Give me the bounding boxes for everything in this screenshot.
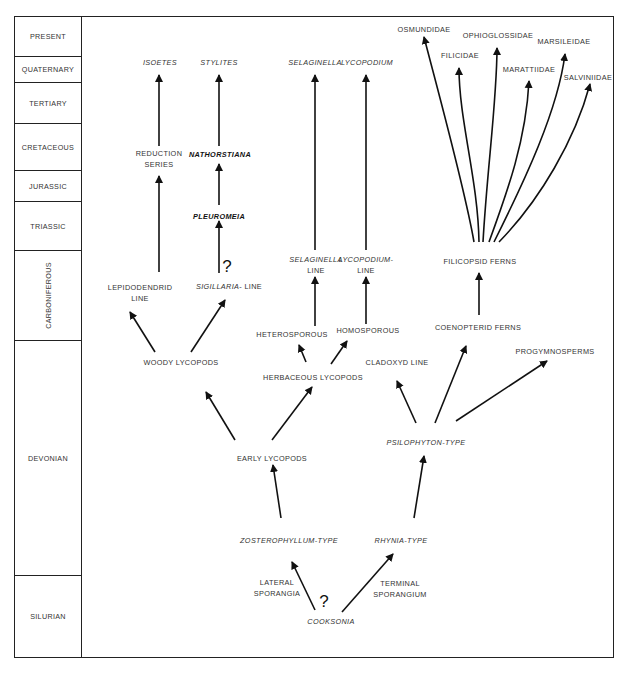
label-line: LINE	[289, 266, 342, 277]
label-coenopterid-ferns: COENOPTERID FERNS	[435, 323, 521, 334]
label-salviniidae: SALVINIIDAE	[564, 73, 612, 84]
arrow-zosterophyllum-to-early	[273, 465, 281, 518]
label-line: SPORANGIA	[254, 589, 301, 600]
question-mark-sigillaria: ?	[222, 257, 231, 277]
label-lateral-sporangia: LATERAL SPORANGIA	[254, 578, 301, 599]
arrow-psilophyton-to-progymnosperms	[456, 361, 547, 421]
label-line: SERIES	[136, 160, 183, 171]
label-rest: -TYPE	[315, 536, 338, 545]
arrow-herbaceous-to-homosporous	[331, 341, 347, 364]
label-ophioglossidae: OPHIOGLOSSIDAE	[463, 31, 534, 42]
label-zosterophyllum-type: ZOSTEROPHYLLUM-TYPE	[240, 536, 338, 547]
label-line: LEPIDODENDRID	[108, 283, 173, 294]
label-line: LINE	[108, 294, 173, 305]
label-isoetes: ISOETES	[143, 58, 177, 69]
arrow-rhynia-to-psilophyton	[414, 456, 424, 518]
label-marsileidae: MARSILEIDAE	[538, 37, 591, 48]
label-nathorstiana: NATHORSTIANA	[189, 150, 251, 161]
label-cladoxyd-line: CLADOXYD LINE	[366, 358, 429, 369]
label-lycopodium: LYCOPODIUM	[341, 58, 393, 69]
label-heterosporous: HETEROSPOROUS	[256, 330, 327, 341]
label-terminal-sporangium: TERMINAL SPORANGIUM	[373, 579, 426, 600]
label-early-lycopods: EARLY LYCOPODS	[237, 454, 307, 465]
label-italic-part: SIGILLARIA	[196, 282, 239, 291]
phylogeny-diagram: PRESENT QUATERNARY TERTIARY CRETACEOUS J…	[0, 0, 623, 677]
label-homosporous: HOMOSPOROUS	[336, 326, 399, 337]
arrow-to-salviniidae	[499, 84, 590, 242]
label-cooksonia: COOKSONIA	[307, 617, 354, 628]
label-selaginella: SELAGINELLA	[288, 58, 341, 69]
arrow-woody-to-lepidodendrid	[130, 312, 155, 352]
label-filicopsid-ferns: FILICOPSID FERNS	[444, 257, 517, 268]
arrow-psilophyton-to-cladoxyd	[397, 381, 416, 423]
question-mark-cooksonia: ?	[319, 592, 328, 612]
label-filicidae: FILICIDAE	[441, 51, 479, 62]
label-marattiidae: MARATTIIDAE	[503, 65, 555, 76]
arrow-to-marattiidae	[489, 81, 529, 242]
label-pleuromeia: PLEUROMEIA	[193, 212, 245, 223]
label-line: SELAGINELLA	[289, 255, 342, 266]
label-woody-lycopods: WOODY LYCOPODS	[143, 358, 218, 369]
label-line: REDUCTION	[136, 149, 183, 160]
label-italic-part: RHYNIA	[375, 536, 405, 545]
label-osmundidae: OSMUNDIDAE	[398, 25, 451, 36]
label-line: TERMINAL	[373, 579, 426, 590]
label-line: SPORANGIUM	[373, 590, 426, 601]
arrow-early-to-herbaceous	[272, 387, 312, 440]
arrow-early-to-woody	[206, 392, 235, 440]
label-sigillaria-line: SIGILLARIA- LINE	[196, 282, 262, 293]
label-line: LINE	[339, 266, 394, 277]
label-stylites: STYLITES	[200, 58, 237, 69]
label-lepidodendrid-line: LEPIDODENDRID LINE	[108, 283, 173, 304]
label-psilophyton-type: PSILOPHYTON-TYPE	[387, 438, 466, 449]
label-lycopodium-line: LYCOPODIUM- LINE	[339, 255, 394, 276]
arrow-herbaceous-to-heterosporous	[299, 345, 306, 362]
label-rest: - LINE	[239, 282, 262, 291]
label-line: LYCOPODIUM-	[339, 255, 394, 266]
label-line: LATERAL	[254, 578, 301, 589]
label-italic-part: PSILOPHYTON	[387, 438, 443, 447]
label-rest: -TYPE	[404, 536, 427, 545]
label-rhynia-type: RHYNIA-TYPE	[375, 536, 428, 547]
arrow-woody-to-sigillaria	[191, 300, 225, 352]
label-italic-part: ZOSTEROPHYLLUM	[240, 536, 315, 545]
label-rest: -TYPE	[442, 438, 465, 447]
arrow-to-ophioglossidae	[483, 48, 497, 242]
label-progymnosperms: PROGYMNOSPERMS	[515, 347, 594, 358]
label-selaginella-line: SELAGINELLA LINE	[289, 255, 342, 276]
label-herbaceous-lycopods: HERBACEOUS LYCOPODS	[263, 373, 363, 384]
arrow-psilophyton-to-coenopterid	[435, 346, 466, 423]
label-reduction-series: REDUCTION SERIES	[136, 149, 183, 170]
